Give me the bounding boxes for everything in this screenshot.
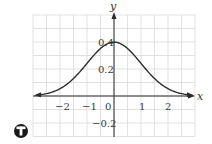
x-tick-label: −2 xyxy=(55,101,70,112)
x-tick-label: −1 xyxy=(82,101,97,112)
y-tick-label: 0.2 xyxy=(98,64,114,75)
curve-left-arrow-icon xyxy=(34,92,41,97)
technology-icon xyxy=(14,124,28,138)
y-tick-label: −0.2 xyxy=(92,118,116,129)
x-tick-label: 0 xyxy=(105,101,111,112)
x-axis-label: x xyxy=(197,90,204,103)
y-tick-label: 0.4 xyxy=(98,37,114,48)
x-tick-label: 2 xyxy=(165,101,171,112)
x-tick-label: 1 xyxy=(139,101,145,112)
y-axis-label: y xyxy=(109,0,117,13)
y-axis-arrow-icon xyxy=(112,12,117,19)
chart: y x −2 −1 0 1 2 0.4 0.2 −0.2 xyxy=(0,0,212,144)
